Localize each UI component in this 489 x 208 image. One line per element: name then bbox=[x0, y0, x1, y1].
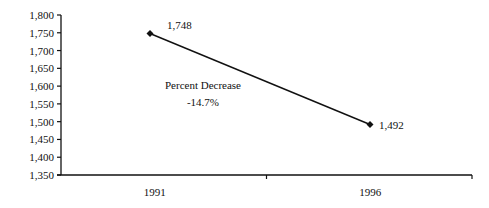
x-tick-label: 1991 bbox=[144, 186, 166, 198]
data-series: 1,7481,492 bbox=[147, 19, 404, 130]
x-tick-label: 1996 bbox=[359, 186, 382, 198]
y-tick-label: 1,400 bbox=[29, 151, 54, 163]
diamond-marker bbox=[147, 30, 154, 37]
y-tick-label: 1,500 bbox=[29, 116, 54, 128]
y-axis: 1,3501,4001,4501,5001,5501,6001,6501,700… bbox=[29, 9, 61, 181]
data-label: 1,748 bbox=[167, 19, 192, 31]
annotation-line-2: -14.7% bbox=[187, 96, 219, 108]
y-tick-label: 1,650 bbox=[29, 62, 54, 74]
x-axis: 19911996 bbox=[57, 175, 472, 198]
y-tick-label: 1,550 bbox=[29, 98, 54, 110]
y-tick-label: 1,600 bbox=[29, 80, 54, 92]
annotation: Percent Decrease -14.7% bbox=[165, 79, 241, 108]
annotation-line-1: Percent Decrease bbox=[165, 79, 241, 91]
data-label: 1,492 bbox=[379, 119, 404, 131]
y-tick-label: 1,800 bbox=[29, 9, 54, 21]
chart-canvas: 1,3501,4001,4501,5001,5501,6001,6501,700… bbox=[0, 0, 489, 208]
y-tick-label: 1,700 bbox=[29, 45, 54, 57]
y-tick-label: 1,750 bbox=[29, 27, 54, 39]
y-tick-label: 1,450 bbox=[29, 133, 54, 145]
line-chart: 1,3501,4001,4501,5001,5501,6001,6501,700… bbox=[0, 0, 489, 208]
y-tick-label: 1,350 bbox=[29, 169, 54, 181]
diamond-marker bbox=[367, 121, 374, 128]
